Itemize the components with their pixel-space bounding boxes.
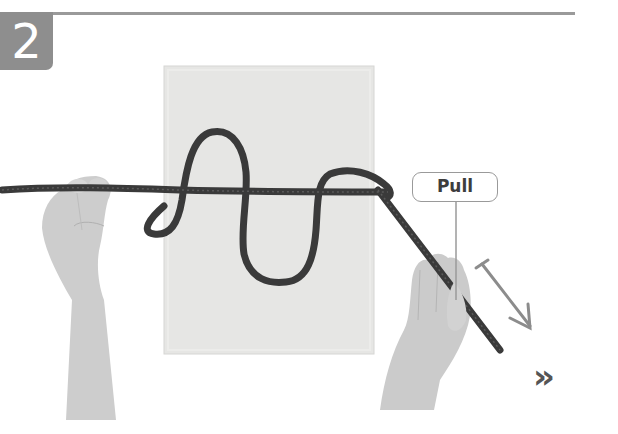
fabric-panel [164, 66, 374, 354]
pull-callout: Pull [412, 172, 498, 202]
left-hand [42, 176, 116, 420]
right-hand [380, 254, 471, 410]
instruction-illustration [0, 0, 618, 434]
arrow-down-right-icon [476, 260, 530, 328]
double-chevron-right-icon[interactable]: » [533, 358, 549, 394]
